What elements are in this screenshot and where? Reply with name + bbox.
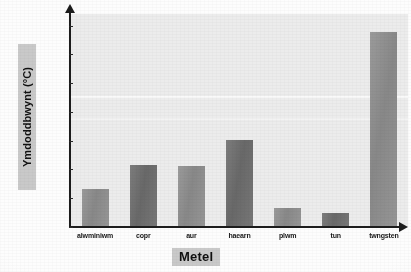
- x-axis-category-label: twngsten: [360, 231, 408, 240]
- bar-copr: [130, 165, 157, 227]
- y-axis-tick-mark: [69, 26, 73, 27]
- bar-haearn: [226, 140, 253, 228]
- x-axis-category-labels: alwminiwmcopraurhaearnplwmtuntwngsten: [71, 231, 408, 245]
- y-axis-tick-mark: [69, 112, 73, 113]
- x-axis-category-label: tun: [312, 231, 360, 240]
- bar-alwminiwm: [82, 189, 109, 227]
- bar-aur: [178, 166, 205, 227]
- bars-layer: [71, 14, 408, 227]
- bar-plwm: [274, 208, 301, 227]
- y-axis-tick-mark: [69, 83, 73, 84]
- x-axis-title: Metel: [172, 248, 220, 266]
- x-axis-category-label: alwminiwm: [71, 231, 119, 240]
- x-axis-category-label: haearn: [215, 231, 263, 240]
- x-axis-category-label: copr: [119, 231, 167, 240]
- x-axis-category-label: aur: [167, 231, 215, 240]
- bar-tun: [322, 213, 349, 227]
- y-axis-tick-mark: [69, 198, 73, 199]
- y-axis-tick-mark: [69, 141, 73, 142]
- bar-twngsten: [370, 32, 397, 227]
- y-axis-tick-mark: [69, 54, 73, 55]
- x-axis-line: [69, 226, 403, 228]
- y-axis-tick-mark: [69, 227, 73, 228]
- bar-chart: 0500100015002000250030003500 alwminiwmco…: [0, 0, 411, 272]
- x-axis-category-label: plwm: [264, 231, 312, 240]
- y-axis-title: Ymdoddbwynt (°C): [18, 44, 36, 190]
- y-axis-title-wrap: Ymdoddbwynt (°C): [18, 44, 36, 190]
- y-axis-tick-mark: [69, 169, 73, 170]
- y-axis-line: [69, 11, 71, 228]
- y-axis-arrow-icon: [65, 4, 75, 13]
